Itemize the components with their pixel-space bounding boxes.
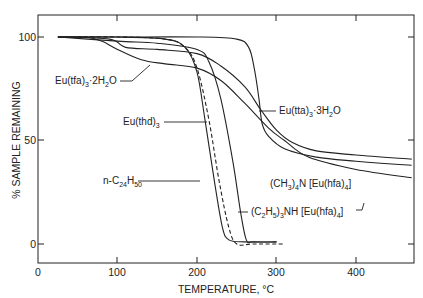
y-tick-100: 100 (18, 31, 36, 43)
x-tick-400: 400 (347, 266, 365, 278)
y-axis-label: % SAMPLE REMAINING (10, 81, 22, 198)
curves (58, 37, 412, 246)
label-eu-thd: Eu(thd)3 (123, 116, 160, 129)
y-tick-0: 0 (30, 238, 36, 250)
label-n-c24h50: n-C24H50 (103, 175, 142, 188)
curve-0 (58, 37, 412, 165)
label-eu-tta: Eu(tta)3·3H2O (279, 105, 341, 118)
tga-chart: 0 100 200 300 400 0 50 100 TEMPERATURE, … (0, 0, 423, 298)
label-me4n-eu-hfa: (CH3)4N [Eu(hfa)4] (270, 178, 351, 191)
curve-2 (58, 37, 412, 178)
plot-frame (38, 15, 414, 263)
x-tick-100: 100 (108, 266, 126, 278)
leader-lines (120, 65, 364, 212)
x-tick-200: 200 (188, 266, 206, 278)
label-eu-tfa: Eu(tfa)3·2H2O (55, 75, 117, 88)
x-ticks (38, 15, 414, 263)
curve-1 (58, 37, 412, 159)
label-et3nh-eu-hfa: (C2H5)3NH [Eu(hfa)4] (251, 206, 344, 219)
curve-5 (58, 37, 277, 242)
y-tick-50: 50 (24, 134, 36, 146)
x-tick-300: 300 (267, 266, 285, 278)
x-axis-label: TEMPERATURE, °C (178, 283, 275, 295)
x-tick-0: 0 (35, 266, 41, 278)
